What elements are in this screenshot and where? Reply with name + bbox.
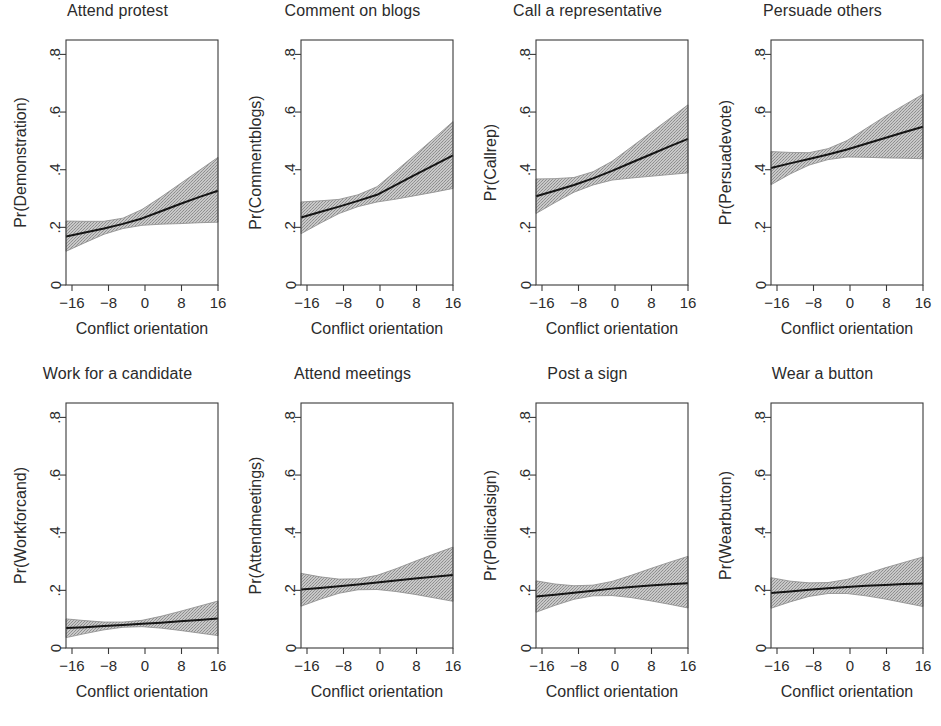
x-tick-label: 0 [611,657,619,674]
y-tick-label: .2 [47,584,64,597]
plot-frame [66,40,218,285]
plot-area: .8.6.4.20−16−80816Pr(Wearbutton)Conflict… [705,363,940,726]
y-tick-label: 0 [752,281,769,289]
x-tick-label: 8 [177,657,185,674]
panel-5: Work for a candidate.8.6.4.20−16−80816Pr… [0,363,235,726]
x-tick-label: −8 [100,294,117,311]
x-tick-label: 16 [915,657,932,674]
y-tick-label: 0 [282,281,299,289]
x-tick-label: 8 [882,657,890,674]
y-tick-label: .4 [517,526,534,539]
x-tick-label: 16 [210,294,227,311]
x-tick-label: 16 [680,294,697,311]
x-axis-label: Conflict orientation [781,320,914,337]
plot-frame [771,403,923,648]
x-tick-label: 16 [445,294,462,311]
small-multiples-figure: Attend protest.8.6.4.20−16−80816Pr(Demon… [0,0,941,726]
panel-7: Post a sign.8.6.4.20−16−80816Pr(Politica… [470,363,705,726]
y-tick-label: .6 [47,106,64,119]
plot-area: .8.6.4.20−16−80816Pr(Demonstration)Confl… [0,0,235,363]
x-axis-label: Conflict orientation [76,320,209,337]
x-tick-label: 0 [376,294,384,311]
y-axis-label: Pr(Wearbutton) [717,471,734,580]
x-tick-label: 8 [647,657,655,674]
plot-area: .8.6.4.20−16−80816Pr(Commentblogs)Confli… [235,0,470,363]
x-tick-label: −16 [294,657,319,674]
y-tick-label: .8 [517,411,534,424]
x-axis-label: Conflict orientation [311,683,444,700]
x-tick-label: 0 [376,657,384,674]
y-tick-label: .4 [282,163,299,176]
plot-frame [301,403,453,648]
plot-area: .8.6.4.20−16−80816Pr(Persuadevote)Confli… [705,0,940,363]
y-tick-label: 0 [47,281,64,289]
y-tick-label: .6 [517,106,534,119]
confidence-band [771,94,923,185]
y-axis-label: Pr(Persuadevote) [717,100,734,225]
y-axis-label: Pr(Demonstration) [12,97,29,228]
y-axis-label: Pr(Attendmeetings) [247,457,264,595]
y-tick-label: .2 [47,221,64,234]
panel-8: Wear a button.8.6.4.20−16−80816Pr(Wearbu… [705,363,940,726]
confidence-band [536,105,688,214]
y-tick-label: 0 [752,644,769,652]
y-tick-label: .2 [517,584,534,597]
y-tick-label: .2 [752,584,769,597]
y-tick-label: .8 [517,48,534,61]
x-tick-label: 16 [680,657,697,674]
x-tick-label: 0 [846,294,854,311]
y-tick-label: .6 [752,469,769,482]
y-axis-label: Pr(Callrep) [482,124,499,201]
panel-1: Attend protest.8.6.4.20−16−80816Pr(Demon… [0,0,235,363]
x-tick-label: 8 [177,294,185,311]
x-tick-label: 16 [210,657,227,674]
panel-4: Persuade others.8.6.4.20−16−80816Pr(Pers… [705,0,940,363]
x-tick-label: −8 [805,294,822,311]
confidence-band [66,157,218,251]
y-tick-label: .4 [752,526,769,539]
y-tick-label: .2 [517,221,534,234]
x-axis-label: Conflict orientation [311,320,444,337]
x-tick-label: −8 [570,294,587,311]
x-tick-label: −16 [764,294,789,311]
x-tick-label: −16 [294,294,319,311]
panel-6: Attend meetings.8.6.4.20−16−80816Pr(Atte… [235,363,470,726]
y-tick-label: .2 [282,584,299,597]
y-tick-label: 0 [517,281,534,289]
x-tick-label: 0 [141,294,149,311]
x-tick-label: −16 [59,294,84,311]
plot-frame [536,403,688,648]
y-tick-label: 0 [282,644,299,652]
y-tick-label: .6 [282,106,299,119]
y-tick-label: .8 [47,48,64,61]
y-tick-label: .2 [282,221,299,234]
x-tick-label: −8 [100,657,117,674]
y-tick-label: .4 [47,163,64,176]
y-tick-label: .6 [282,469,299,482]
y-tick-label: 0 [517,644,534,652]
x-tick-label: 0 [141,657,149,674]
y-tick-label: 0 [47,644,64,652]
x-axis-label: Conflict orientation [781,683,914,700]
y-tick-label: .6 [517,469,534,482]
y-tick-label: .8 [752,48,769,61]
x-tick-label: −8 [335,294,352,311]
y-tick-label: .8 [752,411,769,424]
panel-2: Comment on blogs.8.6.4.20−16−80816Pr(Com… [235,0,470,363]
x-axis-label: Conflict orientation [546,683,679,700]
confidence-band [301,122,453,234]
plot-area: .8.6.4.20−16−80816Pr(Workforcand)Conflic… [0,363,235,726]
x-tick-label: −8 [570,657,587,674]
x-tick-label: 8 [412,657,420,674]
y-tick-label: .4 [752,163,769,176]
x-tick-label: −8 [805,657,822,674]
plot-area: .8.6.4.20−16−80816Pr(Callrep)Conflict or… [470,0,705,363]
y-tick-label: .4 [517,163,534,176]
x-tick-label: −16 [764,657,789,674]
x-tick-label: 0 [611,294,619,311]
y-axis-label: Pr(Workforcand) [12,467,29,584]
panel-3: Call a representative.8.6.4.20−16−80816P… [470,0,705,363]
x-tick-label: 16 [445,657,462,674]
y-axis-label: Pr(Commentblogs) [247,95,264,229]
confidence-band [771,557,923,608]
